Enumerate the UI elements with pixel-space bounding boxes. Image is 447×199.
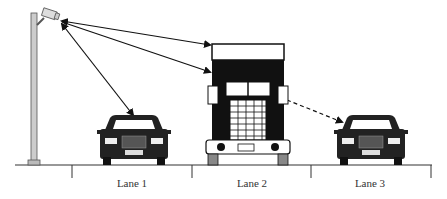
lane-label-1: Lane 1 <box>117 177 147 189</box>
lane-label-2: Lane 2 <box>237 177 267 189</box>
sightline-truck-top <box>62 21 210 45</box>
sightlines <box>62 21 342 122</box>
truck-lane-2 <box>206 44 290 165</box>
pole-base <box>28 160 40 165</box>
traffic-camera-diagram <box>0 0 447 199</box>
sightline-truck-cab <box>62 22 210 72</box>
sightline-car-lane-1 <box>62 24 133 115</box>
camera-pole <box>28 8 60 165</box>
lane-label-3: Lane 3 <box>355 177 385 189</box>
car-lane-1 <box>97 115 171 165</box>
sightline-occluded-car-lane-3 <box>287 100 342 122</box>
truck-trailer <box>212 44 284 60</box>
camera-bracket <box>37 18 44 25</box>
car-lane-3 <box>334 115 408 165</box>
pole <box>31 13 37 163</box>
